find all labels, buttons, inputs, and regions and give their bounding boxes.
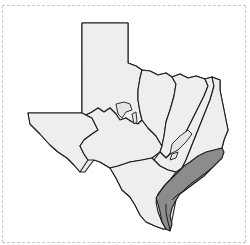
region-panhandle (82, 23, 142, 124)
texas-map (0, 0, 250, 245)
